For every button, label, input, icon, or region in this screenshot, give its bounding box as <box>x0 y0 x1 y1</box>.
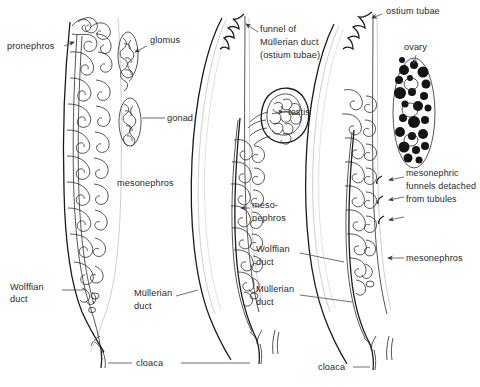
label-pronephros: pronephros <box>7 41 55 51</box>
label-funnel-2: Müllerian duct <box>260 37 319 47</box>
label-funnel-3: (ostium tubae) <box>260 50 320 60</box>
label-cloaca-left: cloaca <box>136 358 164 368</box>
label-gonad: gonad <box>167 113 193 123</box>
label-mullerian-duct-female-2: duct <box>256 297 274 307</box>
label-mesonephros-female: mesonephros <box>406 253 463 263</box>
label-funnels-1: mesonephric <box>406 168 459 178</box>
label-mullerian-duct-male-2: duct <box>134 301 152 311</box>
label-testis: testis <box>288 107 310 117</box>
label-ovary: ovary <box>404 42 427 52</box>
label-wolffian-duct-female-1: Wolffian <box>256 244 290 254</box>
label-cloaca-right: cloaca <box>318 362 346 372</box>
label-glomus: glomus <box>150 35 181 45</box>
label-funnel-1: funnel of <box>260 24 296 34</box>
label-wolffian-duct-female-2: duct <box>256 257 274 267</box>
label-mesonephros-male-1: meso- <box>252 200 278 210</box>
label-mesonephros-male-2: nephros <box>252 213 286 223</box>
urogenital-development-figure: pronephros glomus gonad mesonephros Wolf… <box>0 0 480 387</box>
ovary <box>393 57 435 168</box>
label-mullerian-duct-male-1: Müllerian <box>134 288 172 298</box>
label-funnels-2: funnels detached <box>406 181 476 191</box>
label-ostium-tubae: ostium tubae <box>386 6 440 16</box>
label-mesonephros-larval: mesonephros <box>117 178 174 188</box>
label-funnels-3: from tubules <box>406 194 457 204</box>
label-wolffian-duct-larval-2: duct <box>10 294 28 304</box>
label-mullerian-duct-female-1: Müllerian <box>256 284 294 294</box>
label-wolffian-duct-larval-1: Wolffian <box>10 282 44 292</box>
